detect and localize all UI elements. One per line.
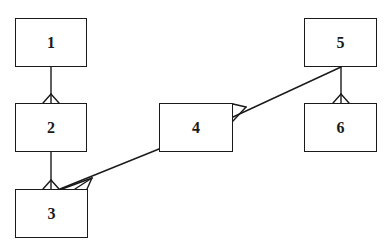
entity-2: 2 — [15, 103, 87, 152]
relationship-1-2 — [43, 67, 59, 103]
entity-5: 5 — [304, 18, 377, 67]
er-diagram: 1 2 3 4 5 6 — [0, 0, 391, 251]
entity-label: 2 — [47, 119, 55, 137]
entity-label: 4 — [192, 119, 200, 137]
entity-label: 6 — [337, 119, 345, 137]
relationship-4-3 — [60, 149, 159, 189]
entity-1: 1 — [15, 18, 87, 67]
entity-6: 6 — [304, 103, 377, 152]
entity-4: 4 — [159, 103, 233, 152]
entity-label: 1 — [47, 34, 55, 52]
entity-3: 3 — [15, 189, 88, 238]
entity-label: 5 — [337, 34, 345, 52]
relationship-5-6 — [333, 67, 349, 103]
entity-label: 3 — [48, 205, 56, 223]
relationship-2-3 — [43, 152, 59, 189]
